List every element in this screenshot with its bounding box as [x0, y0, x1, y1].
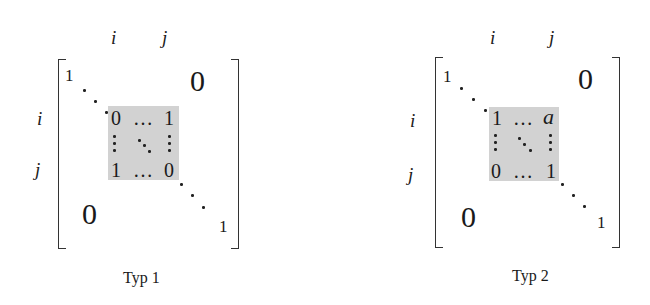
vdot [113, 149, 116, 152]
block-bottom-ellipsis: … [513, 161, 533, 181]
ddot [148, 150, 151, 153]
diag-start: 1 [443, 68, 452, 85]
vdot [494, 148, 497, 151]
col-label-i: i [490, 28, 495, 47]
vdot [168, 149, 171, 152]
right-bracket [612, 57, 620, 248]
block-bottom-ellipsis: … [133, 160, 153, 180]
diag-dot [202, 206, 205, 209]
block-top-left: 1 [492, 108, 502, 128]
vdot [494, 141, 497, 144]
diag-dot [180, 183, 183, 186]
diag-dot [460, 87, 463, 90]
diag-start: 1 [65, 67, 74, 84]
ddot [529, 149, 532, 152]
col-label-j: j [162, 28, 167, 47]
diag-dot [572, 194, 575, 197]
diag-dot [83, 89, 86, 92]
caption: Typ 1 [123, 270, 160, 286]
vdot [549, 134, 552, 137]
row-label-j: j [408, 165, 413, 184]
lower-zero: 0 [461, 202, 476, 232]
diag-dot [484, 109, 487, 112]
diag-dot [583, 205, 586, 208]
left-bracket [58, 59, 66, 249]
left-bracket [435, 57, 443, 248]
row-label-j: j [35, 160, 40, 179]
diag-end: 1 [597, 214, 606, 231]
diag-dot [472, 98, 475, 101]
block-top-ellipsis: … [513, 108, 533, 128]
vdot [168, 135, 171, 138]
block-top-left: 0 [111, 108, 121, 128]
right-bracket [231, 59, 239, 249]
diag-end: 1 [219, 218, 228, 235]
row-label-i: i [37, 109, 42, 128]
block-top-right: a [543, 106, 554, 128]
lower-zero: 0 [82, 199, 97, 229]
vdot [113, 135, 116, 138]
diag-dot [561, 183, 564, 186]
block-bottom-left: 1 [111, 160, 121, 180]
block-bottom-left: 0 [491, 161, 501, 181]
diag-dot [191, 194, 194, 197]
block-top-ellipsis: … [133, 108, 153, 128]
row-label-i: i [410, 111, 415, 130]
diag-dot [94, 100, 97, 103]
col-label-i: i [111, 28, 116, 47]
vdot [494, 134, 497, 137]
block-top-right: 1 [164, 108, 174, 128]
ddot [143, 144, 146, 147]
ddot [518, 137, 521, 140]
upper-zero: 0 [190, 66, 205, 96]
vdot [549, 148, 552, 151]
ddot [523, 143, 526, 146]
ddot [138, 139, 141, 142]
vdot [113, 142, 116, 145]
diag-dot [105, 111, 108, 114]
col-label-j: j [549, 28, 554, 47]
vdot [549, 141, 552, 144]
block-bottom-right: 0 [164, 160, 174, 180]
caption: Typ 2 [512, 268, 549, 284]
vdot [168, 142, 171, 145]
upper-zero: 0 [578, 64, 593, 94]
block-bottom-right: 1 [546, 161, 556, 181]
